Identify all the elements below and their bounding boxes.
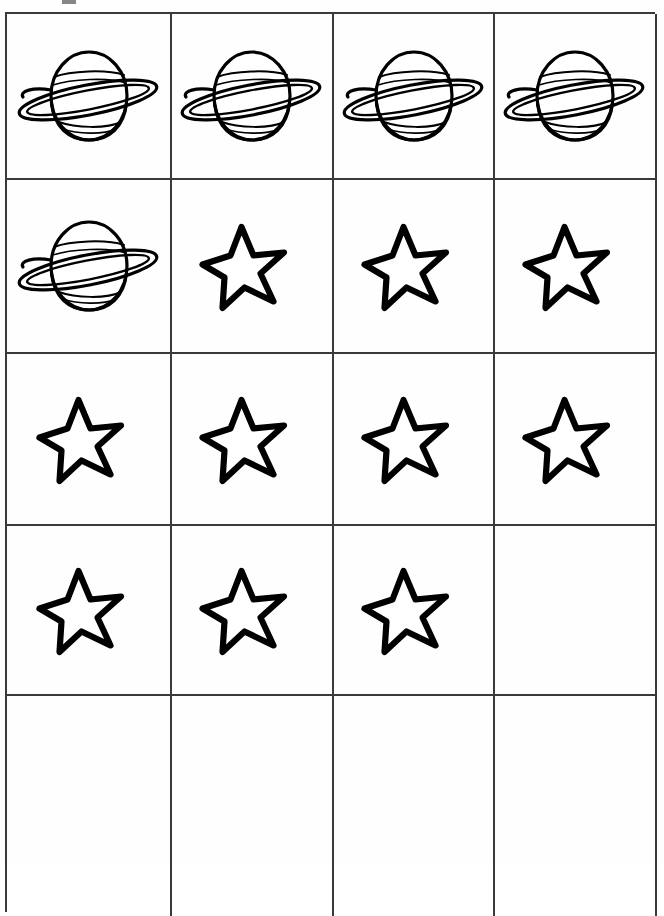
star-icon: [197, 563, 293, 659]
star-icon: [197, 219, 293, 315]
star-icon: [197, 392, 293, 488]
saturn-planet-icon: [338, 43, 488, 149]
scan-artifact-mark: [62, 0, 76, 4]
saturn-planet-icon: [499, 43, 649, 149]
grid-cell-r1-c4[interactable]: [495, 14, 657, 180]
grid-cell-r5-c3[interactable]: [334, 696, 495, 916]
grid-cell-r1-c3[interactable]: [334, 14, 495, 180]
star-icon: [520, 219, 616, 315]
star-icon: [359, 219, 455, 315]
saturn-planet-icon: [176, 43, 326, 149]
grid-cell-r1-c2[interactable]: [172, 14, 334, 180]
grid-cell-r2-c1[interactable]: [7, 180, 172, 354]
grid-cell-r4-c3[interactable]: [334, 526, 495, 696]
star-icon: [359, 563, 455, 659]
saturn-planet-icon: [13, 213, 163, 319]
star-icon: [34, 563, 130, 659]
grid-cell-r3-c3[interactable]: [334, 354, 495, 526]
grid-cell-r3-c2[interactable]: [172, 354, 334, 526]
grid-cell-r4-c2[interactable]: [172, 526, 334, 696]
grid-cell-r3-c1[interactable]: [7, 354, 172, 526]
grid-cell-r5-c4[interactable]: [495, 696, 657, 916]
grid-cell-r4-c4[interactable]: [495, 526, 657, 696]
grid-cell-r2-c2[interactable]: [172, 180, 334, 354]
grid-cell-r2-c4[interactable]: [495, 180, 657, 354]
grid-cell-r5-c1[interactable]: [7, 696, 172, 916]
grid-cell-r1-c1[interactable]: [7, 14, 172, 180]
grid-cell-r4-c1[interactable]: [7, 526, 172, 696]
saturn-planet-icon: [13, 43, 163, 149]
star-icon: [34, 392, 130, 488]
star-icon: [359, 392, 455, 488]
grid-cell-r5-c2[interactable]: [172, 696, 334, 916]
star-icon: [520, 392, 616, 488]
grid-cell-r2-c3[interactable]: [334, 180, 495, 354]
worksheet-grid: [5, 12, 655, 912]
grid-cell-r3-c4[interactable]: [495, 354, 657, 526]
